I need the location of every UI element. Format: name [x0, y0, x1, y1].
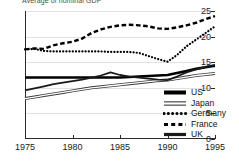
legend-item-france[interactable]: France — [163, 120, 237, 129]
legend-item-uk[interactable]: UK — [163, 130, 237, 139]
legend-item-us[interactable]: US — [163, 88, 237, 97]
legend-item-germany[interactable]: Germany — [163, 109, 237, 118]
y-axis-tick-label: 15 — [201, 57, 211, 67]
legend-swatch-japan-icon — [163, 99, 187, 108]
legend-label: Japan — [191, 99, 214, 108]
chart-title: Average of nominal GDP — [22, 0, 102, 4]
legend-swatch-germany-icon — [163, 109, 187, 118]
legend-swatch-us-icon — [163, 88, 187, 97]
legend-label: UK — [191, 130, 203, 139]
x-axis-tick-label: 1990 — [157, 142, 177, 152]
x-axis-tick-label: 1995 — [205, 142, 225, 152]
series-line-germany — [25, 26, 215, 61]
legend-label: Germany — [191, 109, 226, 118]
x-axis-tick-label: 1985 — [110, 142, 130, 152]
x-axis-tick-label: 1980 — [62, 142, 82, 152]
legend-label: US — [191, 88, 203, 97]
legend-swatch-france-icon — [163, 120, 187, 129]
legend-item-japan[interactable]: Japan — [163, 99, 237, 108]
x-axis-tick-label: 1975 — [15, 142, 35, 152]
series-line-france — [25, 16, 215, 49]
legend-swatch-uk-icon — [163, 130, 187, 139]
chart-legend: USJapanGermanyFranceUK — [163, 88, 237, 141]
y-axis-tick-label: 20 — [201, 32, 211, 42]
chart-container: Average of nominal GDP 0510152025 197519… — [0, 0, 239, 161]
legend-label: France — [191, 120, 217, 129]
y-axis-tick-label: 25 — [201, 6, 211, 16]
